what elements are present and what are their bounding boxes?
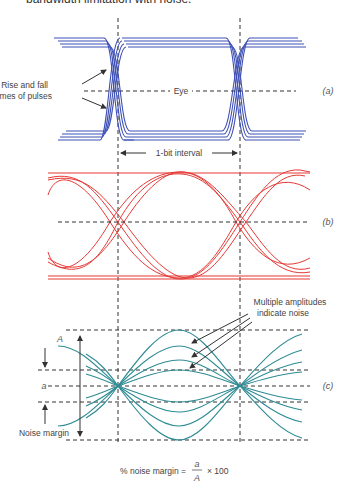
- noise-margin-label: Noise margin: [19, 428, 69, 438]
- label-amplitude-A: A: [56, 334, 63, 344]
- label-a: a: [41, 381, 46, 391]
- bit-boundary-lines: [118, 18, 240, 442]
- formula-prefix: % noise margin =: [120, 466, 186, 476]
- formula-suffix: × 100: [207, 466, 229, 476]
- panel-b-traces: [48, 170, 310, 279]
- eye-label: Eye: [174, 86, 189, 96]
- panel-a-tag: (a): [323, 86, 334, 96]
- arrow-icon: [190, 322, 252, 368]
- rise-fall-label-1: Rise and fall: [1, 80, 48, 90]
- multiple-amplitudes-label-2: indicate noise: [257, 308, 309, 318]
- arrow-icon: [82, 70, 106, 84]
- rise-fall-label-2: times of pulses: [0, 91, 52, 101]
- arrow-icon: [192, 318, 250, 357]
- formula-numerator: a: [194, 459, 199, 469]
- panel-b-tag: (b): [323, 217, 334, 227]
- panel-c-traces: [58, 330, 302, 440]
- interval-label: 1-bit interval: [156, 148, 202, 158]
- eye-diagram: Eye Rise and fall times of pulses (a) 1-…: [0, 0, 349, 488]
- noise-margin-formula: % noise margin = a A × 100: [120, 459, 229, 483]
- multiple-amplitudes-label-1: Multiple amplitudes: [254, 297, 327, 307]
- formula-denominator: A: [193, 473, 200, 483]
- arrow-icon: [82, 98, 106, 108]
- panel-c-tag: (c): [323, 381, 334, 391]
